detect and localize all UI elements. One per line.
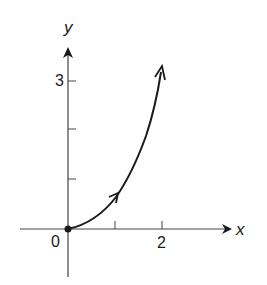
x-tick-label-2: 2 xyxy=(157,234,166,252)
curve-diagram xyxy=(0,0,267,285)
curve-path xyxy=(68,72,161,229)
x-axis-label: x xyxy=(236,220,245,240)
y-axis-label: y xyxy=(64,18,73,38)
start-point-dot xyxy=(65,226,72,233)
origin-label: 0 xyxy=(51,233,60,251)
y-tick-label-3: 3 xyxy=(55,72,64,90)
